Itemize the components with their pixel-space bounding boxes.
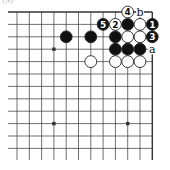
point-label-a: a bbox=[149, 43, 156, 56]
white-stone bbox=[122, 56, 134, 68]
white-stone bbox=[122, 31, 134, 43]
move-number: 3 bbox=[149, 32, 155, 42]
white-stone: 2 bbox=[110, 19, 122, 31]
black-stone bbox=[122, 19, 134, 31]
point-label-b: b bbox=[136, 6, 143, 19]
white-stone: 4 bbox=[122, 6, 134, 18]
white-stone bbox=[134, 56, 146, 68]
black-stone: 5 bbox=[97, 19, 109, 31]
black-stone bbox=[60, 31, 72, 43]
black-stone bbox=[110, 31, 122, 43]
black-stone bbox=[134, 43, 146, 55]
star-point bbox=[126, 122, 129, 125]
move-number: 4 bbox=[125, 7, 131, 17]
move-number: 2 bbox=[112, 20, 118, 30]
move-number: 1 bbox=[149, 20, 155, 30]
black-stone bbox=[85, 31, 97, 43]
star-point bbox=[52, 122, 55, 125]
white-stone bbox=[85, 56, 97, 68]
black-stone: 3 bbox=[146, 31, 158, 43]
go-board-diagram: 52413 ba bbox=[0, 0, 170, 170]
black-stone bbox=[110, 43, 122, 55]
black-stone bbox=[122, 43, 134, 55]
white-stone bbox=[134, 19, 146, 31]
star-point bbox=[52, 48, 55, 51]
white-stone bbox=[110, 56, 122, 68]
white-stone bbox=[134, 31, 146, 43]
black-stone: 1 bbox=[146, 19, 158, 31]
move-number: 5 bbox=[100, 20, 106, 30]
